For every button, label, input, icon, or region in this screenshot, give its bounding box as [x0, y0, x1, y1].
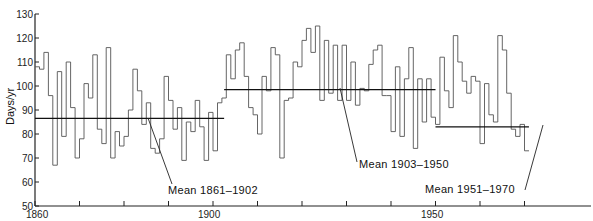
leader-mean-1903-1950 [340, 88, 357, 162]
mean-lines [35, 90, 529, 127]
y-tick-label: 80 [22, 129, 34, 140]
y-tick-label: 60 [22, 177, 34, 188]
leader-mean-1951-1970 [525, 125, 543, 190]
annual-days-series [35, 26, 529, 165]
y-tick-label: 70 [22, 153, 34, 164]
step-chart: 5060708090100110120130 Mean 1861–1902 Me… [0, 0, 593, 221]
y-axis-label: Days/yr [4, 87, 16, 125]
y-tick-label: 130 [16, 9, 33, 20]
y-tick-label: 90 [22, 105, 34, 116]
x-tick-label-1950: 1950 [421, 209, 444, 220]
y-tick-label: 120 [16, 33, 33, 44]
y-tick-label: 100 [16, 81, 33, 92]
x-tick-label-1860: 1860 [26, 209, 49, 220]
annotation-mean-1861-1902: Mean 1861–1902 [168, 184, 258, 196]
annotation-mean-1903-1950: Mean 1903–1950 [359, 158, 449, 170]
y-tick-label: 110 [17, 57, 33, 68]
leader-mean-1861-1902 [148, 118, 172, 184]
x-axis-ticks [35, 201, 525, 206]
annotation-mean-1951-1970: Mean 1951–1970 [425, 183, 515, 195]
x-tick-label-1900: 1900 [198, 209, 221, 220]
